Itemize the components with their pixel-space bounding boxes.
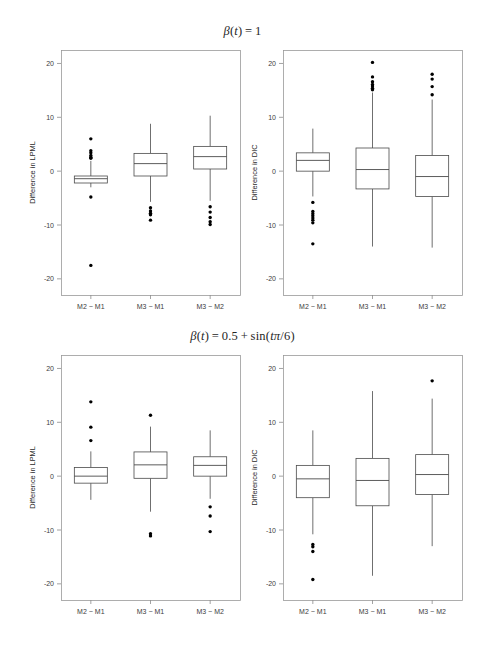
outlier-point bbox=[371, 61, 374, 64]
y-tick-label: -10 bbox=[44, 527, 54, 534]
outlier-point bbox=[311, 545, 314, 548]
outlier-point bbox=[149, 414, 152, 417]
outlier-point bbox=[311, 201, 314, 204]
outlier-point bbox=[430, 93, 433, 96]
outlier-point bbox=[311, 242, 314, 245]
y-tick-label: 20 bbox=[46, 365, 54, 372]
outlier-point bbox=[89, 400, 92, 403]
boxplot-1 bbox=[296, 129, 329, 246]
boxplot-1 bbox=[74, 400, 107, 500]
y-tick-label: 0 bbox=[272, 473, 276, 480]
y-tick-label: -10 bbox=[266, 527, 276, 534]
boxplot-figure: β(t) = 1 β(t) = 0.5 + sin(tπ/6) 20100-10… bbox=[0, 0, 485, 653]
x-tick-label: M3 − M1 bbox=[137, 608, 165, 615]
outlier-point bbox=[371, 88, 374, 91]
box-iqr bbox=[356, 458, 389, 505]
panel-top-left: 20100-10-20Difference in LPMLM2 − M1M3 −… bbox=[28, 51, 241, 311]
y-tick-label: 10 bbox=[46, 114, 54, 121]
outlier-point bbox=[208, 223, 211, 226]
x-tick-label: M3 − M2 bbox=[196, 303, 224, 310]
y-axis-label: Difference in LPML bbox=[28, 446, 37, 509]
y-tick-label: -20 bbox=[44, 275, 54, 282]
box-iqr bbox=[194, 146, 227, 169]
y-tick-label: 20 bbox=[268, 60, 276, 67]
boxplot-2 bbox=[134, 414, 167, 538]
figure-title-top: β(t) = 1 bbox=[0, 24, 485, 39]
outlier-point bbox=[208, 505, 211, 508]
y-tick-label: -20 bbox=[44, 580, 54, 587]
x-tick-label: M2 − M1 bbox=[77, 608, 105, 615]
y-tick-label: -20 bbox=[266, 580, 276, 587]
outlier-point bbox=[149, 218, 152, 221]
outlier-point bbox=[208, 530, 211, 533]
panel-top-right: 20100-10-20Difference in DICM2 − M1M3 − … bbox=[250, 51, 463, 311]
x-tick-label: M3 − M1 bbox=[137, 303, 165, 310]
boxplot-3 bbox=[194, 116, 227, 226]
box-iqr bbox=[416, 156, 449, 197]
box-iqr bbox=[74, 176, 107, 183]
y-tick-label: 10 bbox=[268, 114, 276, 121]
x-tick-label: M2 − M1 bbox=[299, 608, 327, 615]
outlier-point bbox=[430, 379, 433, 382]
y-tick-label: 20 bbox=[46, 60, 54, 67]
outlier-point bbox=[89, 195, 92, 198]
outlier-point bbox=[430, 77, 433, 80]
outlier-point bbox=[311, 221, 314, 224]
x-tick-label: M3 − M2 bbox=[196, 608, 224, 615]
boxplot-2 bbox=[134, 124, 167, 222]
boxplot-2 bbox=[356, 391, 389, 576]
plot-canvas: 20100-10-20Difference in LPMLM2 − M1M3 −… bbox=[0, 0, 485, 653]
y-tick-label: 0 bbox=[50, 473, 54, 480]
panel-bottom-right: 20100-10-20Difference in DICM2 − M1M3 − … bbox=[250, 356, 463, 616]
outlier-point bbox=[89, 425, 92, 428]
y-tick-label: 10 bbox=[268, 419, 276, 426]
outlier-point bbox=[89, 137, 92, 140]
y-tick-label: 10 bbox=[46, 419, 54, 426]
box-iqr bbox=[74, 468, 107, 484]
box-iqr bbox=[296, 153, 329, 171]
y-tick-label: 0 bbox=[272, 168, 276, 175]
x-tick-label: M3 − M2 bbox=[418, 608, 446, 615]
y-tick-label: -10 bbox=[266, 222, 276, 229]
boxplot-3 bbox=[416, 379, 449, 546]
y-axis-label: Difference in DIC bbox=[250, 449, 259, 506]
box-iqr bbox=[194, 457, 227, 476]
y-tick-label: 20 bbox=[268, 365, 276, 372]
y-tick-label: -10 bbox=[44, 222, 54, 229]
outlier-point bbox=[208, 216, 211, 219]
boxplot-1 bbox=[296, 430, 329, 581]
box-iqr bbox=[134, 153, 167, 176]
outlier-point bbox=[371, 75, 374, 78]
boxplot-3 bbox=[194, 430, 227, 533]
panel-bottom-left: 20100-10-20Difference in LPMLM2 − M1M3 −… bbox=[28, 356, 241, 616]
boxplot-2 bbox=[356, 61, 389, 247]
y-tick-label: -20 bbox=[266, 275, 276, 282]
x-tick-label: M2 − M1 bbox=[299, 303, 327, 310]
x-tick-label: M3 − M1 bbox=[359, 608, 387, 615]
outlier-point bbox=[208, 514, 211, 517]
outlier-point bbox=[430, 73, 433, 76]
box-iqr bbox=[296, 465, 329, 497]
outlier-point bbox=[89, 157, 92, 160]
outlier-point bbox=[149, 534, 152, 537]
outlier-point bbox=[149, 206, 152, 209]
x-tick-label: M2 − M1 bbox=[77, 303, 105, 310]
outlier-point bbox=[149, 213, 152, 216]
outlier-point bbox=[89, 264, 92, 267]
outlier-point bbox=[208, 205, 211, 208]
x-tick-label: M3 − M2 bbox=[418, 303, 446, 310]
boxplot-3 bbox=[416, 73, 449, 248]
y-tick-label: 0 bbox=[50, 168, 54, 175]
outlier-point bbox=[208, 210, 211, 213]
box-iqr bbox=[356, 148, 389, 189]
outlier-point bbox=[311, 578, 314, 581]
outlier-point bbox=[311, 550, 314, 553]
x-tick-label: M3 − M1 bbox=[359, 303, 387, 310]
outlier-point bbox=[430, 85, 433, 88]
figure-title-bottom: β(t) = 0.5 + sin(tπ/6) bbox=[0, 329, 485, 344]
boxplot-1 bbox=[74, 137, 107, 267]
y-axis-label: Difference in DIC bbox=[250, 144, 259, 201]
outlier-point bbox=[89, 439, 92, 442]
y-axis-label: Difference in LPML bbox=[28, 141, 37, 204]
